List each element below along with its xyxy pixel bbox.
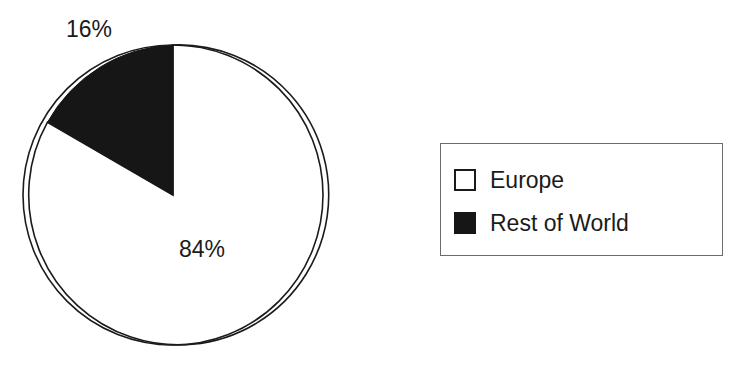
legend-label-rest-of-world: Rest of World [490,212,629,235]
slice-label-europe: 84% [179,238,225,261]
pie-chart-figure: 16% 84% Europe Rest of World [0,0,742,371]
legend-swatch-rest-of-world-icon [454,212,476,234]
chart-legend: Europe Rest of World [440,143,723,256]
legend-swatch-europe-icon [454,169,476,191]
legend-item-rest-of-world[interactable]: Rest of World [454,210,629,236]
legend-item-europe[interactable]: Europe [454,167,564,193]
slice-label-rest-of-world: 16% [66,18,112,41]
legend-label-europe: Europe [490,169,564,192]
